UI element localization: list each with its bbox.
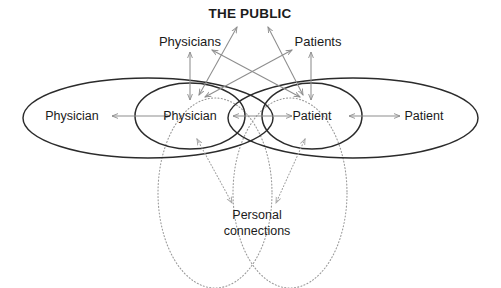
patients-group-label: Patients xyxy=(295,34,342,49)
physician-inner-label: Physician xyxy=(163,109,217,123)
patient-outer-label: Patient xyxy=(405,109,444,123)
physician-outer-label: Physician xyxy=(45,109,99,123)
dotted-ellipse-right xyxy=(233,98,347,288)
patient-inner-label: Patient xyxy=(293,109,332,123)
arrow-patients-group-to-physician-inner xyxy=(205,50,292,97)
personal-connections-label-line2: connections xyxy=(224,224,291,238)
diagram-svg: THE PUBLIC Physicians Patients Physician… xyxy=(0,0,501,288)
personal-connections-dotted-ellipses xyxy=(158,98,347,288)
physicians-group-label: Physicians xyxy=(159,34,222,49)
personal-connections-label-line1: Personal xyxy=(232,208,281,222)
arrow-patient-inner-to-personal xyxy=(276,139,305,203)
personal-connections-arrows xyxy=(197,139,305,203)
the-public-label: THE PUBLIC xyxy=(209,6,292,21)
dotted-ellipse-left xyxy=(158,98,272,288)
cross-group-connections xyxy=(205,50,300,97)
diagram-canvas: THE PUBLIC Physicians Patients Physician… xyxy=(0,0,501,288)
